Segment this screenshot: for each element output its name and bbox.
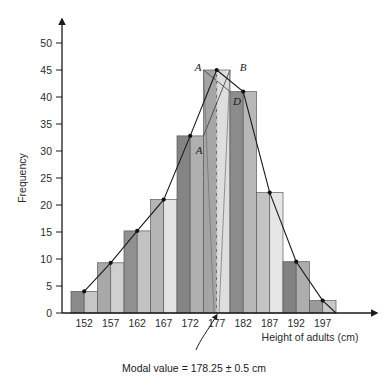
x-tick-label: 152 bbox=[75, 317, 93, 329]
chart-svg: 0 5 10 15 20 25 30 35 40 45 50 152 157 1… bbox=[0, 0, 389, 391]
y-tick-label: 10 bbox=[40, 253, 52, 265]
x-tick-label: 167 bbox=[155, 317, 173, 329]
y-tick-labels: 0 5 10 15 20 25 30 35 40 45 50 bbox=[40, 37, 52, 319]
y-axis-title: Frequency bbox=[16, 152, 28, 202]
x-tick-label: 192 bbox=[287, 317, 305, 329]
y-tick-label: 30 bbox=[40, 145, 52, 157]
y-tick-label: 5 bbox=[46, 280, 52, 292]
y-tick-label: 40 bbox=[40, 91, 52, 103]
bars-group bbox=[71, 70, 336, 313]
x-tick-label: 187 bbox=[261, 317, 279, 329]
frequency-histogram-chart: 0 5 10 15 20 25 30 35 40 45 50 152 157 1… bbox=[0, 0, 389, 391]
y-tick-label: 25 bbox=[40, 172, 52, 184]
x-tick-label: 177 bbox=[208, 317, 226, 329]
bar-172 bbox=[177, 136, 204, 313]
bar-162 bbox=[124, 231, 151, 313]
label-a-top: A bbox=[194, 61, 202, 73]
x-tick-label: 182 bbox=[234, 317, 252, 329]
y-tick-label: 45 bbox=[40, 64, 52, 76]
label-d: D bbox=[232, 95, 241, 107]
x-tick-labels: 152 157 162 167 172 177 182 187 192 197 bbox=[75, 317, 331, 329]
bar-152 bbox=[71, 291, 98, 313]
bar-182 bbox=[230, 92, 257, 313]
bar-167 bbox=[151, 200, 178, 313]
x-tick-label: 172 bbox=[181, 317, 199, 329]
x-tick-label: 157 bbox=[102, 317, 120, 329]
label-a-lower: A bbox=[195, 144, 203, 156]
y-ticks bbox=[56, 43, 62, 313]
bar-192 bbox=[283, 262, 310, 313]
x-axis-title: Height of adults (cm) bbox=[262, 331, 359, 343]
x-tick-label: 162 bbox=[128, 317, 146, 329]
y-tick-label: 50 bbox=[40, 37, 52, 49]
y-tick-label: 15 bbox=[40, 226, 52, 238]
y-tick-label: 0 bbox=[46, 307, 52, 319]
label-b-top: B bbox=[240, 61, 247, 73]
y-tick-label: 20 bbox=[40, 199, 52, 211]
y-tick-label: 35 bbox=[40, 118, 52, 130]
modal-value-caption: Modal value = 178.25 ± 0.5 cm bbox=[122, 362, 266, 374]
bar-187 bbox=[257, 193, 284, 313]
bar-157 bbox=[98, 263, 125, 313]
x-tick-label: 197 bbox=[314, 317, 332, 329]
